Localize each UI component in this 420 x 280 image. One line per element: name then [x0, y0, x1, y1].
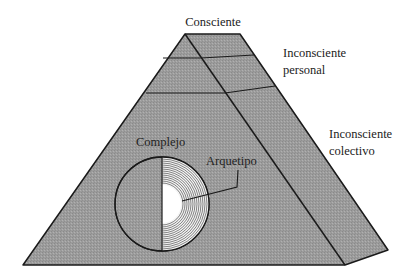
label-consciente: Consciente: [185, 15, 241, 29]
label-inconsciente-colectivo-2: colectivo: [329, 144, 375, 158]
label-inconsciente-personal-2: personal: [283, 63, 326, 77]
label-inconsciente-personal-1: Inconsciente: [283, 46, 347, 60]
label-arquetipo: Arquetipo: [206, 154, 257, 168]
complejo-circle: [115, 157, 209, 251]
label-inconsciente-colectivo-1: Inconsciente: [329, 127, 393, 141]
label-complejo: Complejo: [136, 135, 185, 149]
pyramid-diagram: Consciente Inconsciente personal Inconsc…: [0, 0, 420, 280]
